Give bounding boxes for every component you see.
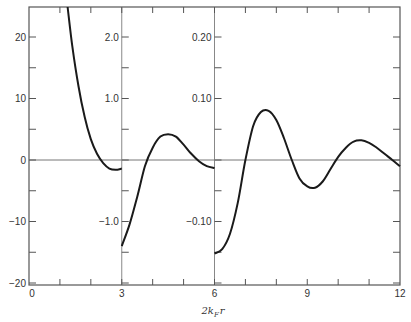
- y-tick-label: 1.0: [105, 93, 119, 104]
- y-tick-label: −10: [9, 216, 26, 227]
- y-tick-label: 0.10: [192, 93, 212, 104]
- y-tick-label: 20: [15, 32, 27, 43]
- x-tick-label: 6: [212, 288, 218, 299]
- x-tick-labels: 036912: [29, 288, 406, 299]
- y-tick-label: −20: [9, 278, 26, 289]
- curve-panel-6-12: [215, 110, 401, 254]
- x-tick-label: 9: [304, 288, 310, 299]
- x-tick-label: 12: [394, 288, 406, 299]
- x-axis-label: 2kFr: [200, 305, 225, 319]
- y-tick-label: −1.0: [99, 216, 119, 227]
- curve-panel-3-6: [122, 134, 215, 246]
- y-tick-label: 0: [20, 155, 26, 166]
- chart-figure: 20100−10−202.01.0−1.00.200.10−0.10 03691…: [0, 0, 411, 322]
- y-tick-label: 2.0: [105, 32, 119, 43]
- x-tick-label: 0: [29, 288, 35, 299]
- y-tick-label: −0.10: [186, 216, 212, 227]
- y-tick-label: 0.20: [192, 32, 212, 43]
- x-tick-label: 3: [119, 288, 125, 299]
- panel-dividers: [122, 7, 215, 285]
- y-tick-label: 10: [15, 93, 27, 104]
